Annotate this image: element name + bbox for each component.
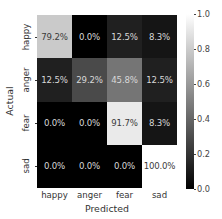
colorbar-tick: 0.0 [194, 184, 210, 194]
heatmap-cell: 12.5% [142, 58, 177, 101]
heatmap-cell: 0.0% [37, 145, 72, 188]
y-tick-anger: anger [18, 58, 34, 101]
heatmap-cell: 12.5% [107, 15, 142, 58]
y-tick-labels: happy anger fear sad [18, 15, 34, 188]
x-tick-sad: sad [142, 190, 177, 200]
heatmap-cell: 91.7% [107, 102, 142, 145]
y-tick-sad: sad [18, 145, 34, 188]
colorbar-tick: 0.2 [194, 149, 210, 159]
heatmap-cell: 45.8% [107, 58, 142, 101]
x-tick-happy: happy [37, 190, 72, 200]
heatmap-cell: 0.0% [37, 102, 72, 145]
y-tick-fear: fear [18, 102, 34, 145]
x-tick-anger: anger [72, 190, 107, 200]
x-tick-labels: happy anger fear sad [37, 190, 177, 200]
heatmap-cell: 8.3% [142, 102, 177, 145]
heatmap-cell: 0.0% [72, 145, 107, 188]
colorbar-tick: 0.4 [194, 114, 210, 124]
y-tick-happy: happy [18, 15, 34, 58]
heatmap-cell: 29.2% [72, 58, 107, 101]
heatmap-cell: 100.0% [142, 145, 177, 188]
heatmap-cell: 0.0% [72, 15, 107, 58]
colorbar-ticks: 1.00.80.60.40.20.0 [194, 14, 222, 189]
x-tick-fear: fear [107, 190, 142, 200]
heatmap-cell: 79.2% [37, 15, 72, 58]
colorbar-tick: 0.6 [194, 79, 210, 89]
x-axis-title: Predicted [37, 203, 177, 214]
heatmap-cell: 0.0% [72, 102, 107, 145]
heatmap-cell: 0.0% [107, 145, 142, 188]
colorbar-tick: 0.8 [194, 44, 210, 54]
y-axis-title: Actual [4, 86, 15, 115]
confusion-matrix-heatmap: 79.2%0.0%12.5%8.3%12.5%29.2%45.8%12.5%0.… [37, 15, 177, 188]
heatmap-cell: 12.5% [37, 58, 72, 101]
heatmap-cell: 8.3% [142, 15, 177, 58]
colorbar [186, 14, 194, 189]
colorbar-tick: 1.0 [194, 9, 210, 19]
